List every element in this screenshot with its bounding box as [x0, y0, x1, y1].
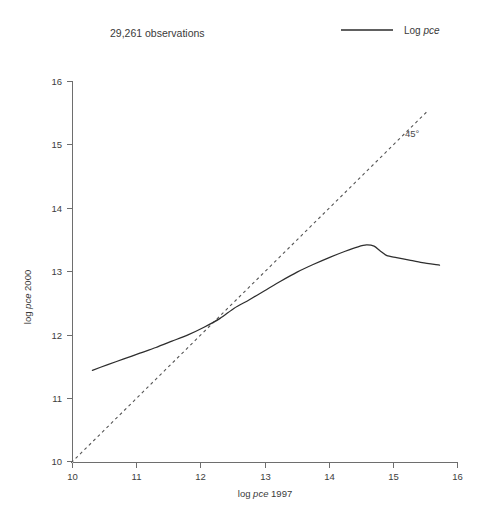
y-axis-title-prefix: log: [22, 309, 33, 324]
diagonal-annotation-label: 45°: [405, 128, 420, 139]
y-axis-title-italic: pce: [22, 294, 33, 310]
x-axis-title-italic: pce: [252, 488, 268, 499]
chart-figure: 29,261 observations Log pce 16 15 14 13 …: [0, 0, 487, 514]
x-axis-title-prefix: log: [238, 488, 253, 499]
x-tick-label-15: 15: [388, 471, 399, 482]
y-axis-title-suffix: 2000: [22, 270, 33, 294]
x-tick-label-10: 10: [67, 471, 78, 482]
legend-label-prefix: Log: [404, 25, 423, 36]
y-tick-label-10: 10: [51, 456, 62, 467]
x-axis-title-suffix: 1997: [268, 488, 292, 499]
y-axis-title: log pce 2000: [22, 270, 33, 324]
y-tick-label-12: 12: [51, 330, 62, 341]
legend-label-italic: pce: [422, 25, 440, 36]
y-tick-label-11: 11: [52, 393, 62, 404]
x-tick-label-13: 13: [260, 471, 271, 482]
y-tick-label-16: 16: [51, 76, 62, 87]
observations-label: 29,261 observations: [110, 27, 205, 39]
y-tick-label-14: 14: [51, 203, 62, 214]
x-tick-label-12: 12: [195, 471, 206, 482]
legend-label-log-pce: Log pce: [404, 25, 440, 36]
chart-background: [0, 0, 487, 514]
y-tick-label-15: 15: [51, 139, 62, 150]
x-tick-label-14: 14: [324, 471, 335, 482]
x-tick-label-11: 11: [132, 471, 142, 482]
y-tick-label-13: 13: [51, 266, 62, 277]
x-axis-title: log pce 1997: [238, 488, 292, 499]
x-tick-label-16: 16: [452, 471, 463, 482]
